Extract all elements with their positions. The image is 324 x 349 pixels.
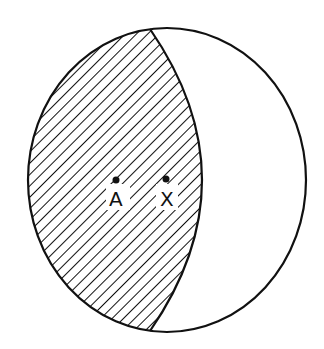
point-a-label: A <box>109 187 123 211</box>
point-x-label: X <box>160 187 174 211</box>
point-x-dot <box>163 176 170 183</box>
circle-region-diagram: A X <box>0 0 324 349</box>
point-a-dot <box>113 177 120 184</box>
